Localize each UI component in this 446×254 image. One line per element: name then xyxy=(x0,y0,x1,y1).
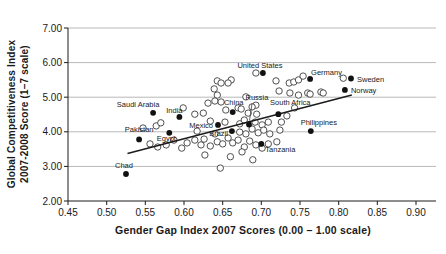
data-point-open xyxy=(235,137,241,143)
data-point-open xyxy=(261,127,267,133)
data-point-open xyxy=(239,149,245,155)
data-point-open xyxy=(320,90,326,96)
data-point-open xyxy=(223,107,229,113)
data-point-open xyxy=(284,113,290,119)
country-label-russia: Russia xyxy=(246,93,270,102)
data-point-open xyxy=(179,145,185,151)
data-point-norway xyxy=(342,87,348,93)
x-tick-label: 0.65 xyxy=(213,207,233,218)
data-point-open xyxy=(287,90,293,96)
y-tick-label: 7.00 xyxy=(43,23,63,34)
data-point-philippines xyxy=(308,128,314,134)
country-label-tanzania: Tanzania xyxy=(265,145,296,154)
data-point-open xyxy=(267,131,273,137)
data-point-open xyxy=(200,110,206,116)
data-point-open xyxy=(265,119,271,125)
y-tick-label: 6.00 xyxy=(43,57,63,68)
y-tick-label: 2.00 xyxy=(43,196,63,207)
data-point-open xyxy=(250,157,256,163)
data-point-open xyxy=(300,73,306,79)
data-point-open xyxy=(278,119,284,125)
data-point-open xyxy=(212,98,218,104)
data-point-open xyxy=(214,92,220,98)
data-point-open xyxy=(243,131,249,137)
country-label-norway: Norway xyxy=(351,86,377,95)
country-label-china: China xyxy=(224,98,244,107)
y-tick-label: 4.00 xyxy=(43,126,63,137)
country-label-united-states: United States xyxy=(237,61,282,70)
x-tick-label: 0.90 xyxy=(406,207,426,218)
x-axis-title: Gender Gap Index 2007 Scores (0.00 – 1.0… xyxy=(43,224,443,236)
data-point-open xyxy=(247,138,253,144)
data-point-saudi-arabia xyxy=(150,110,156,116)
data-point-sweden xyxy=(348,76,354,82)
data-point-open xyxy=(158,120,164,126)
data-point-russia xyxy=(246,122,252,128)
country-label-philippines: Philippines xyxy=(301,118,338,127)
data-point-south-africa xyxy=(275,111,281,117)
country-label-pakistan: Pakistan xyxy=(125,125,154,134)
data-point-open xyxy=(192,137,198,143)
country-label-south-africa: South Africa xyxy=(270,98,311,107)
data-point-open xyxy=(227,154,233,160)
country-label-india: India xyxy=(166,106,183,115)
data-point-open xyxy=(202,152,208,158)
data-point-open xyxy=(237,129,243,135)
data-point-open xyxy=(307,91,313,97)
data-point-open xyxy=(211,86,217,92)
data-point-open xyxy=(198,142,204,148)
data-point-open xyxy=(205,100,211,106)
x-tick-label: 0.70 xyxy=(252,207,272,218)
country-label-chad: Chad xyxy=(115,161,133,170)
data-point-open xyxy=(273,78,279,84)
data-point-open xyxy=(277,127,283,133)
y-tick-label: 5.00 xyxy=(43,92,63,103)
x-tick-label: 0.55 xyxy=(136,207,156,218)
y-tick-label: 3.00 xyxy=(43,161,63,172)
scatter-plot: 0.450.500.550.600.650.700.750.800.850.90… xyxy=(0,0,446,254)
data-point-open xyxy=(254,111,260,117)
x-tick-label: 0.60 xyxy=(174,207,194,218)
data-point-mexico xyxy=(215,122,221,128)
country-label-brazil: Brazil xyxy=(209,129,228,138)
data-point-open xyxy=(222,119,228,125)
data-point-chad xyxy=(123,171,129,177)
country-label-saudi-arabia: Saudi Arabia xyxy=(117,100,160,109)
country-label-egypt: Egypt xyxy=(157,134,177,143)
x-tick-label: 0.50 xyxy=(97,207,117,218)
x-tick-label: 0.45 xyxy=(58,207,78,218)
data-point-open xyxy=(217,165,223,171)
data-point-open xyxy=(184,140,190,146)
x-tick-label: 0.75 xyxy=(290,207,310,218)
data-point-open xyxy=(192,111,198,117)
data-point-open xyxy=(253,142,259,148)
data-point-united-states xyxy=(260,70,266,76)
data-point-open xyxy=(201,136,207,142)
data-point-tanzania xyxy=(258,141,264,147)
data-point-open xyxy=(253,70,259,76)
data-point-open xyxy=(147,141,153,147)
data-point-open xyxy=(218,80,224,86)
data-point-brazil xyxy=(229,128,235,134)
data-point-open xyxy=(276,88,282,94)
data-point-china xyxy=(230,109,236,115)
data-point-open xyxy=(220,141,226,147)
x-tick-label: 0.85 xyxy=(368,207,388,218)
country-label-sweden: Sweden xyxy=(357,75,384,84)
data-point-pakistan xyxy=(136,137,142,143)
x-tick-label: 0.80 xyxy=(329,207,349,218)
country-label-germany: Germany xyxy=(311,68,342,77)
scatter-plot-figure: Global Competitiveness Index 2007-2008 S… xyxy=(0,0,446,254)
data-point-open xyxy=(225,80,231,86)
data-point-open xyxy=(207,143,213,149)
